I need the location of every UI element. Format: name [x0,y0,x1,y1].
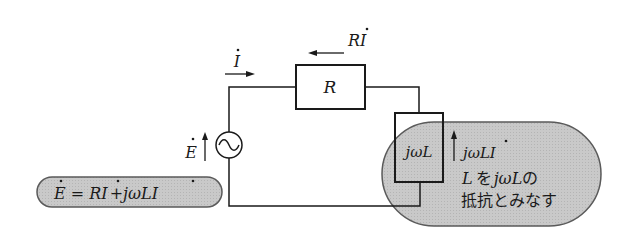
equation-dot-e [60,180,63,183]
equation-dot-i1 [117,180,120,183]
source-voltage-label: E [184,143,197,162]
equation: E = RI+jωLI [53,184,159,203]
circuit-diagram: R jωL E I RI jωLI LをjωLの 抵抗とみなす E = RI+j… [0,0,641,236]
current-arrow-icon [225,71,255,77]
resistor-label: R [323,77,337,97]
source-voltage-arrow-icon [202,132,208,161]
resistor-voltage-label: RI [347,31,367,50]
current-label: I [233,52,241,71]
inductor-voltage-dot [505,140,508,143]
resistor-voltage-arrow-icon [308,50,344,56]
source-label-dot [192,138,195,141]
note-line-1: LをjωLの [461,169,538,188]
equation-dot-i2 [192,180,195,183]
inductor-voltage-label: jωLI [460,144,497,162]
inductor-label: jωL [403,143,433,161]
note-line-2: 抵抗とみなす [461,191,557,210]
resistor-voltage-dot [366,28,369,31]
current-label-dot [237,49,240,52]
